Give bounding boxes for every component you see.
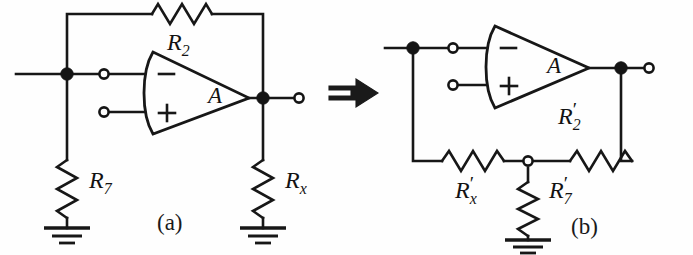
label-R7-prime: R7′: [549, 178, 564, 202]
wire-a-feedback-left: [67, 14, 152, 74]
node-b-divider-tap: [523, 156, 532, 165]
node-a-output: [257, 92, 269, 104]
label-R2-prime: R2′: [558, 104, 573, 128]
label-opamp-a-gain: A: [208, 84, 222, 107]
terminal-b-output: [644, 63, 653, 72]
resistor-Rxp-zigzag: [442, 151, 504, 171]
label-Rx-prime: Rx′: [455, 178, 470, 202]
node-a-input: [61, 68, 73, 80]
wire-b-left-riser: [413, 48, 442, 161]
circuit-b-group: [385, 26, 654, 253]
caption-b: (b): [571, 214, 598, 240]
resistor-Rx-zigzag: [253, 160, 273, 218]
ground-r7p: [505, 240, 551, 253]
resistor-R2-zigzag: [152, 4, 212, 24]
resistor-R7p-zigzag: [518, 182, 538, 236]
resistor-R7-zigzag: [57, 160, 77, 218]
double-right-arrow-icon: [329, 79, 378, 107]
node-b-output: [615, 62, 627, 74]
node-b-input: [407, 42, 419, 54]
ground-r7: [44, 228, 90, 243]
label-R7: R7: [89, 168, 104, 192]
ground-rx: [240, 228, 286, 243]
terminal-a-noninverting: [99, 107, 108, 116]
circuit-a-group: [16, 4, 304, 243]
circuit-figure-page: R2 A R7 Rx (a) A R2′ Rx′ R7′ (b): [0, 0, 693, 255]
caption-a: (a): [157, 210, 183, 236]
label-R2: R2: [167, 30, 182, 54]
terminal-a-output: [294, 93, 303, 102]
terminal-b-noninverting: [448, 80, 457, 89]
opamp-a-body: [144, 52, 249, 134]
wire-b-right-riser: [621, 68, 632, 161]
label-Rx: Rx: [285, 168, 300, 192]
label-opamp-b-gain: A: [547, 54, 561, 77]
terminal-b-inverting: [448, 43, 457, 52]
opamp-b-body: [486, 26, 589, 108]
terminal-a-inverting: [99, 69, 108, 78]
